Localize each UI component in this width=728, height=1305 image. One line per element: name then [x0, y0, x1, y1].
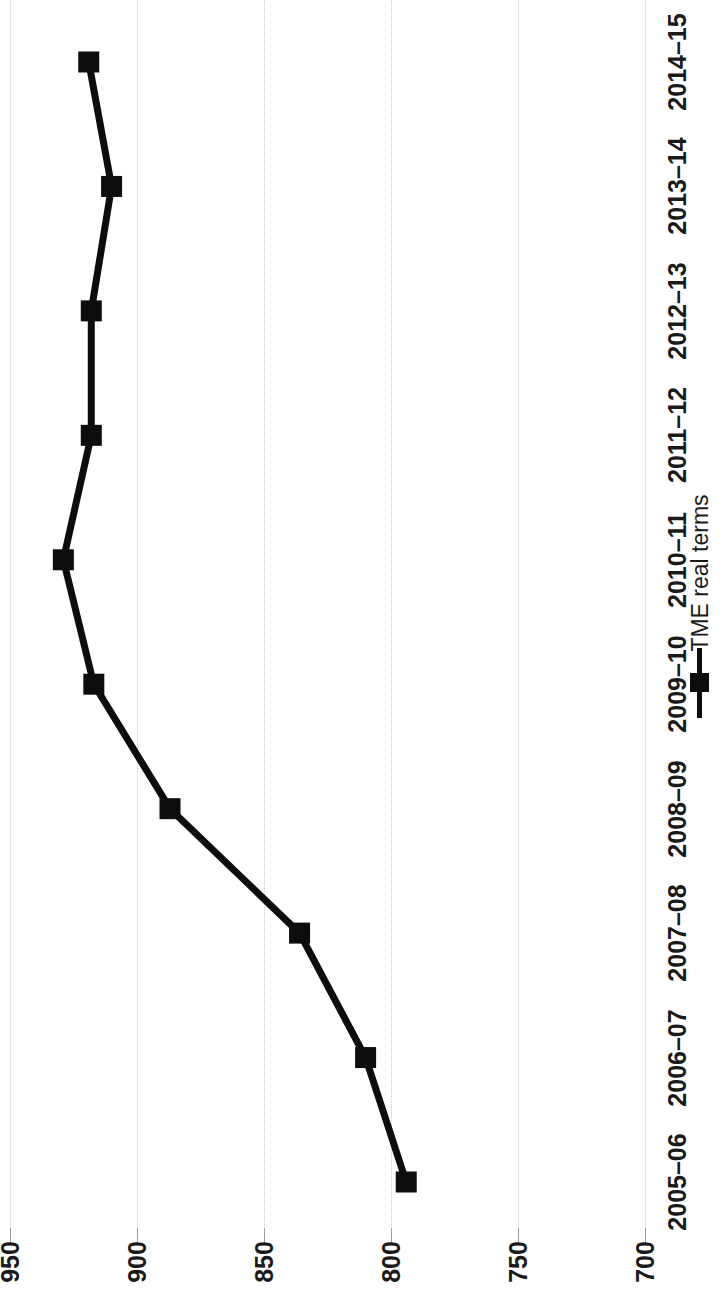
- value-axis-label: 700: [635, 1235, 655, 1289]
- chart-legend: TME real terms: [672, 500, 728, 760]
- category-axis-label: 2007–08: [664, 868, 690, 998]
- value-axis-label: 850: [254, 1235, 274, 1289]
- data-point-marker: [160, 798, 181, 819]
- legend-square-icon: [690, 673, 709, 692]
- series-layer: [0, 0, 660, 1245]
- series-line: [63, 62, 406, 1182]
- category-axis-label: 2008–09: [664, 744, 690, 874]
- legend-label: TME real terms: [685, 483, 715, 663]
- category-axis-label: 2011–12: [664, 370, 690, 500]
- data-point-marker: [53, 549, 74, 570]
- value-axis-label: 900: [127, 1235, 147, 1289]
- data-point-marker: [101, 176, 122, 197]
- data-point-marker: [81, 300, 102, 321]
- value-axis-label: 950: [0, 1235, 20, 1289]
- category-axis-label: 2013–14: [664, 121, 690, 251]
- category-axis-label: 2005–06: [664, 1117, 690, 1247]
- category-axis-label: 2006–07: [664, 993, 690, 1123]
- data-point-marker: [78, 52, 99, 73]
- data-point-marker: [83, 674, 104, 695]
- data-point-marker: [355, 1047, 376, 1068]
- data-point-marker: [81, 425, 102, 446]
- data-point-marker: [289, 923, 310, 944]
- category-axis-label: 2014–15: [664, 0, 690, 127]
- plot-area: [0, 0, 660, 1245]
- line-chart: 950900850800750700 2005–062006–072007–08…: [0, 0, 728, 1305]
- value-axis-label: 800: [381, 1235, 401, 1289]
- data-point-marker: [396, 1172, 417, 1193]
- category-axis-label: 2012–13: [664, 246, 690, 376]
- value-axis-label: 750: [508, 1235, 528, 1289]
